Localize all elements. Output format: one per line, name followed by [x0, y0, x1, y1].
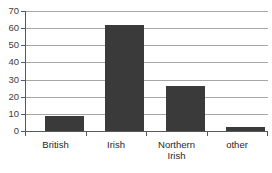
bars-layer	[25, 11, 268, 131]
x-axis-label-northern-irish: Northern Irish	[146, 139, 207, 161]
y-tick-50	[21, 45, 25, 46]
bar-northern-irish[interactable]	[166, 86, 205, 131]
y-tick-10	[21, 114, 25, 115]
y-axis-line	[25, 11, 26, 132]
y-tick-30	[21, 80, 25, 81]
y-axis-label-60: 60	[0, 23, 19, 33]
y-axis-label-50: 50	[0, 40, 19, 50]
y-axis-label-30: 30	[0, 75, 19, 85]
bar-british[interactable]	[45, 116, 84, 131]
x-tick-0	[25, 131, 26, 136]
x-axis-label-british: British	[25, 139, 86, 150]
y-axis-label-0: 0	[0, 126, 19, 136]
y-axis-label-10: 10	[0, 109, 19, 119]
x-tick-2	[146, 131, 147, 136]
y-tick-60	[21, 28, 25, 29]
y-tick-70	[21, 11, 25, 12]
bar-chart: 70 60 50 40 30 20 10 0 British Irish Nor…	[0, 0, 272, 173]
x-axis-label-irish: Irish	[86, 139, 146, 150]
x-tick-1	[86, 131, 87, 136]
y-axis-label-40: 40	[0, 57, 19, 67]
clipped-title-remnant	[25, 0, 205, 4]
x-tick-3	[207, 131, 208, 136]
x-axis-label-other: other	[207, 139, 267, 150]
bar-irish[interactable]	[105, 25, 144, 131]
y-tick-40	[21, 62, 25, 63]
x-tick-4	[267, 131, 268, 136]
y-tick-20	[21, 97, 25, 98]
y-axis-label-70: 70	[0, 6, 19, 16]
y-axis-label-20: 20	[0, 92, 19, 102]
